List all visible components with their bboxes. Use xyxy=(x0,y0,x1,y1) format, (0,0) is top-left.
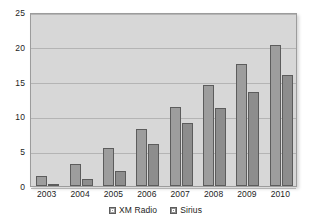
x-tick-label: 2010 xyxy=(271,189,290,199)
bar xyxy=(148,144,159,186)
y-tick-label: 15 xyxy=(15,78,25,88)
y-axis: 0510152025 xyxy=(0,0,30,200)
bar xyxy=(115,171,126,186)
x-tick-label: 2003 xyxy=(37,189,56,199)
bar xyxy=(170,107,181,186)
legend-swatch-icon xyxy=(170,207,177,214)
bar xyxy=(103,148,114,186)
bar xyxy=(48,184,59,186)
legend-label: XM Radio xyxy=(119,205,157,215)
legend-label: Sirius xyxy=(180,205,202,215)
bar xyxy=(36,176,47,186)
x-tick-label: 2009 xyxy=(237,189,256,199)
x-tick-label: 2005 xyxy=(104,189,123,199)
bar xyxy=(136,129,147,186)
bar-group xyxy=(136,14,159,186)
bar xyxy=(282,75,293,186)
y-tick-label: 10 xyxy=(15,112,25,122)
bar-group xyxy=(236,14,259,186)
bar-group xyxy=(270,14,293,186)
bar xyxy=(203,85,214,186)
x-tick-label: 2006 xyxy=(137,189,156,199)
legend-item[interactable]: Sirius xyxy=(170,205,202,215)
chart-legend: XM RadioSirius xyxy=(0,205,311,215)
bars-layer xyxy=(31,14,296,186)
bar-group xyxy=(70,14,93,186)
bar xyxy=(70,164,81,186)
x-axis: 20032004200520062007200820092010 xyxy=(30,189,297,202)
x-tick-label: 2008 xyxy=(204,189,223,199)
bar-chart-figure: 0510152025 20032004200520062007200820092… xyxy=(0,0,311,222)
bar xyxy=(82,179,93,186)
bar-group xyxy=(36,14,59,186)
y-tick-label: 20 xyxy=(15,43,25,53)
plot-area xyxy=(30,13,297,187)
bar xyxy=(248,92,259,186)
bar xyxy=(270,45,281,186)
bar xyxy=(215,108,226,186)
y-tick-label: 25 xyxy=(15,8,25,18)
bar-group xyxy=(170,14,193,186)
bar xyxy=(182,123,193,186)
bar-group xyxy=(103,14,126,186)
x-tick-label: 2007 xyxy=(171,189,190,199)
y-tick-label: 5 xyxy=(20,147,25,157)
bar-group xyxy=(203,14,226,186)
x-tick-label: 2004 xyxy=(70,189,89,199)
legend-swatch-icon xyxy=(109,207,116,214)
bar xyxy=(236,64,247,186)
y-tick-label: 0 xyxy=(20,182,25,192)
legend-item[interactable]: XM Radio xyxy=(109,205,157,215)
